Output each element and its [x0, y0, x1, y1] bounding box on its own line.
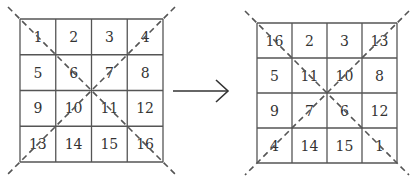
cell-number: 9: [270, 103, 279, 119]
cell-number: 8: [141, 65, 150, 81]
cell-number: 5: [270, 68, 279, 84]
cell-number: 15: [100, 136, 118, 152]
cell-number: 9: [33, 100, 42, 116]
cell-number: 14: [65, 136, 83, 152]
cell-number: 3: [105, 29, 114, 45]
cell-number: 8: [375, 68, 384, 84]
left-grid: 12345678910111213141516: [8, 7, 175, 174]
cell-number: 3: [340, 33, 349, 49]
cell-number: 14: [301, 138, 319, 154]
right-arrow-icon: [173, 80, 228, 102]
cell-number: 12: [371, 103, 389, 119]
cell-number: 5: [33, 65, 42, 81]
cell-number: 2: [305, 33, 314, 49]
right-grid: 16231351110897612414151: [245, 11, 409, 175]
magic-square-diagram: 12345678910111213141516 1623135111089761…: [0, 0, 417, 182]
cell-number: 2: [69, 29, 78, 45]
cell-number: 12: [136, 100, 154, 116]
cell-number: 15: [336, 138, 354, 154]
